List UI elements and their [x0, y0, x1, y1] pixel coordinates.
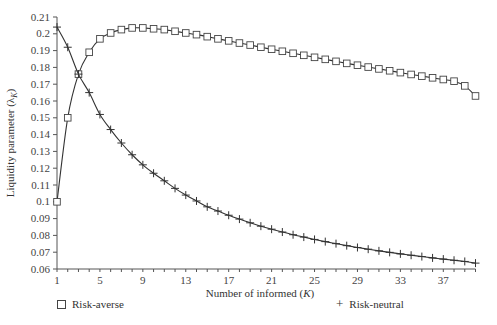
y-axis-label: Liquidity parameter (λK) [4, 88, 19, 197]
y-tick-label: 0.12 [31, 162, 50, 174]
series-line-risk-averse [57, 28, 476, 202]
x-tick-label: 9 [140, 274, 146, 286]
y-tick-label: 0.19 [31, 44, 51, 56]
plus-marker-icon [321, 238, 329, 246]
x-tick-label: 21 [266, 274, 277, 286]
plus-marker-icon [268, 225, 276, 233]
square-marker-icon [290, 50, 297, 57]
plus-marker-icon [364, 245, 372, 253]
plus-marker-icon [150, 169, 158, 177]
x-tick-label: 17 [223, 274, 235, 286]
y-tick-label: 0.14 [31, 128, 51, 140]
plus-marker-icon [96, 110, 104, 118]
y-tick-label: 0.08 [31, 229, 51, 241]
plus-marker-icon [332, 240, 340, 248]
plus-marker-icon [160, 177, 168, 185]
plus-marker-icon [257, 222, 265, 230]
y-tick-label: 0.15 [31, 111, 51, 123]
square-marker-icon [150, 25, 157, 32]
plus-marker-icon [246, 219, 254, 227]
plus-marker-icon [171, 184, 179, 192]
x-tick-label: 37 [438, 274, 450, 286]
square-marker-icon [118, 26, 125, 33]
square-marker-icon [343, 60, 350, 67]
plus-marker-icon [235, 215, 243, 223]
plus-marker-icon [64, 43, 72, 51]
legend-label: Risk-averse [72, 298, 124, 310]
square-marker-icon [236, 40, 243, 47]
square-marker-icon [333, 58, 340, 65]
y-tick-label: 0.16 [31, 95, 51, 107]
plus-marker-icon [375, 247, 383, 255]
plus-marker-icon [407, 251, 415, 259]
plus-marker-icon [182, 191, 190, 199]
square-marker-icon [376, 66, 383, 73]
legend-item-risk-neutral: + Risk-neutral [336, 298, 404, 310]
square-marker-icon [419, 73, 426, 80]
plus-marker-icon [300, 233, 308, 241]
y-tick-label: 0.17 [31, 78, 51, 90]
square-marker-icon [440, 76, 447, 83]
square-marker-icon [311, 54, 318, 61]
x-tick-label: 13 [180, 274, 192, 286]
y-tick-label: 0.2 [36, 27, 50, 39]
square-marker-icon [182, 30, 189, 37]
square-marker-icon [172, 28, 179, 35]
square-marker-icon [451, 78, 458, 85]
square-marker-icon [461, 83, 468, 90]
plus-marker-icon [214, 207, 222, 215]
y-tick-label: 0.1 [36, 195, 50, 207]
plus-marker-icon [311, 235, 319, 243]
legend-item-risk-averse: Risk-averse [57, 298, 124, 310]
y-tick-label: 0.07 [31, 246, 51, 258]
square-marker-icon [408, 71, 415, 78]
square-marker-icon [354, 62, 361, 69]
x-axis-label: Number of informed (K) [206, 287, 315, 300]
y-tick-label: 0.09 [31, 212, 51, 224]
plus-marker-icon [472, 259, 480, 267]
square-marker-icon [472, 93, 479, 100]
square-marker-icon [268, 46, 275, 53]
plus-marker-icon [461, 257, 469, 265]
square-marker-icon [193, 31, 200, 38]
square-marker-icon [397, 69, 404, 76]
plus-marker-icon [353, 243, 361, 251]
x-tick-label: 1 [54, 274, 60, 286]
plus-marker-icon [396, 250, 404, 258]
series-line-risk-neutral [57, 27, 476, 263]
square-marker-icon [140, 25, 147, 32]
square-marker-icon [57, 300, 66, 309]
square-marker-icon [54, 199, 61, 206]
y-tick-label: 0.13 [31, 145, 51, 157]
plus-marker-icon [53, 23, 61, 31]
plus-marker-icon [450, 256, 458, 264]
square-marker-icon [247, 42, 254, 49]
square-marker-icon [86, 49, 93, 56]
plus-marker-icon: + [336, 299, 343, 309]
plus-marker-icon [278, 228, 286, 236]
plus-marker-icon [343, 242, 351, 250]
y-tick-label: 0.21 [31, 11, 50, 23]
square-marker-icon [97, 36, 104, 43]
x-tick-label: 5 [97, 274, 103, 286]
y-tick-label: 0.18 [31, 61, 51, 73]
square-marker-icon [301, 52, 308, 59]
square-marker-icon [129, 25, 136, 32]
plus-marker-icon [193, 197, 201, 205]
square-marker-icon [215, 36, 222, 43]
square-marker-icon [429, 75, 436, 82]
square-marker-icon [386, 67, 393, 74]
plus-marker-icon [289, 231, 297, 239]
x-tick-label: 25 [309, 274, 321, 286]
square-marker-icon [258, 44, 265, 51]
plus-marker-icon [386, 248, 394, 256]
square-marker-icon [204, 33, 211, 40]
y-tick-label: 0.06 [31, 263, 51, 275]
square-marker-icon [279, 48, 286, 55]
series-group [53, 23, 480, 267]
plus-marker-icon [418, 253, 426, 261]
x-tick-label: 33 [395, 274, 407, 286]
x-tick-label: 29 [352, 274, 364, 286]
plus-marker-icon [85, 89, 93, 97]
axes: 0.060.070.080.090.10.110.120.130.140.150… [31, 11, 476, 287]
